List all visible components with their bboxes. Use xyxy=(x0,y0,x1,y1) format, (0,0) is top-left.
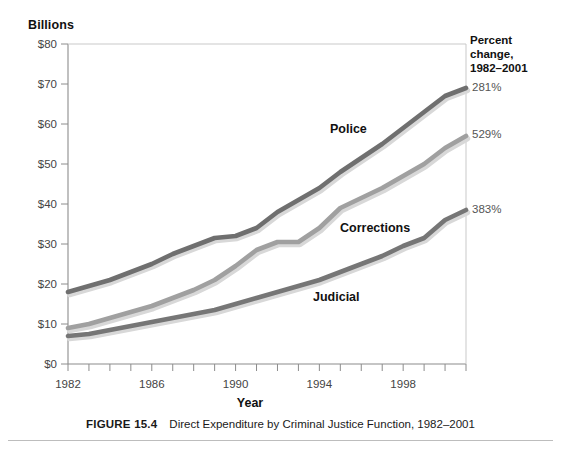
y-axis-tick-label: $10 xyxy=(38,318,57,330)
x-axis-tick-label: 1998 xyxy=(390,378,416,390)
x-axis-tick-label: 1986 xyxy=(139,378,165,390)
figure-caption: FIGURE 15.4Direct Expenditure by Crimina… xyxy=(0,418,561,430)
y-axis-tick-label: $80 xyxy=(38,38,57,50)
series-label-judicial: Judicial xyxy=(313,290,360,304)
y-axis-tick-label: $0 xyxy=(44,358,57,370)
percent-change-header: Percent change, 1982–2001 xyxy=(470,33,556,75)
series-label-corrections: Corrections xyxy=(340,221,410,235)
y-axis-tick-group: $0$10$20$30$40$50$60$70$80 xyxy=(38,38,68,370)
x-axis-tick-label: 1990 xyxy=(223,378,249,390)
y-axis-tick-label: $20 xyxy=(38,278,57,290)
caption-divider xyxy=(8,440,553,441)
percent-header-line2: change, xyxy=(470,48,513,60)
figure-caption-text: Direct Expenditure by Criminal Justice F… xyxy=(169,418,475,430)
x-axis-tick-label: 1982 xyxy=(55,378,81,390)
y-axis-tick-label: $40 xyxy=(38,198,57,210)
y-axis-tick-label: $30 xyxy=(38,238,57,250)
y-axis-tick-label: $50 xyxy=(38,158,57,170)
x-axis-tick-label: 1994 xyxy=(307,378,333,390)
percent-header-line3: 1982–2001 xyxy=(470,62,528,74)
figure-container: Billions $0$10$20$30$40$50$60$70$80 1982… xyxy=(0,0,561,462)
x-axis-title: Year xyxy=(0,396,500,410)
series-path-group xyxy=(68,88,468,339)
percent-change-police: 281% xyxy=(472,81,501,93)
y-axis-tick-label: $60 xyxy=(38,118,57,130)
series-line-shadow-police xyxy=(70,91,468,295)
figure-number: FIGURE 15.4 xyxy=(86,418,157,430)
percent-change-corrections: 529% xyxy=(472,128,501,140)
percent-header-line1: Percent xyxy=(470,34,512,46)
percent-change-judicial: 383% xyxy=(472,203,501,215)
x-axis-tick-group: 19821986199019941998 xyxy=(55,364,466,390)
y-axis-tick-label: $70 xyxy=(38,78,57,90)
series-label-police: Police xyxy=(330,122,367,136)
series-line-police xyxy=(68,88,466,292)
